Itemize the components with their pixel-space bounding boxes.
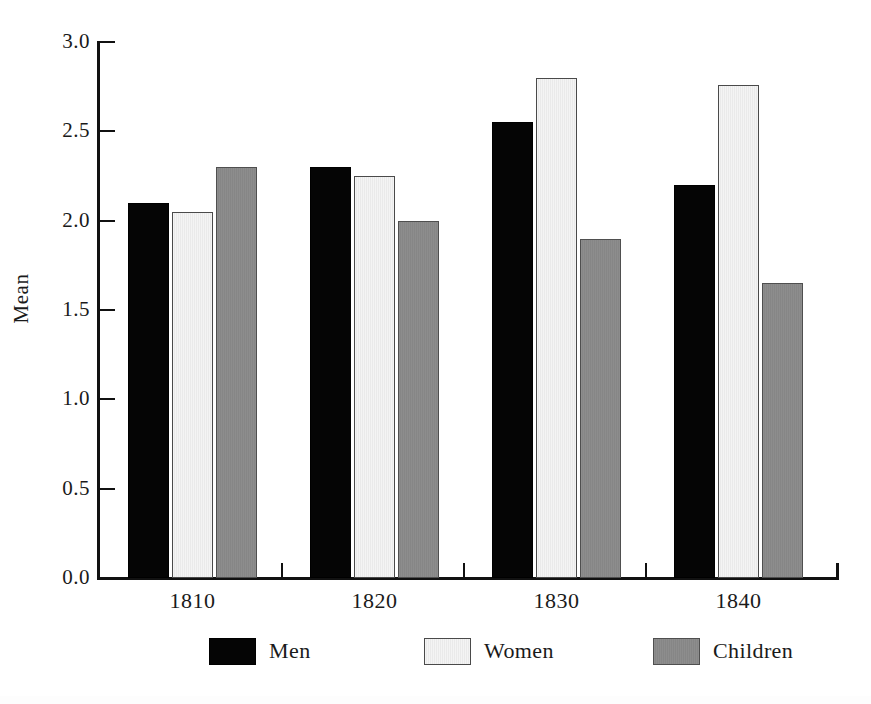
bar-men-1820 [310, 167, 351, 578]
legend-swatch-men [209, 638, 256, 665]
x-axis-separator-tick [463, 563, 465, 578]
legend-label-women: Women [484, 639, 554, 663]
y-axis-tick-label-wrap: 1.5 [18, 299, 90, 320]
y-axis-tick-label-wrap: 3.0 [18, 31, 90, 52]
y-axis-tick-label: 3.0 [34, 31, 90, 52]
y-axis-tick-label: 1.5 [34, 299, 90, 320]
legend-label-men: Men [269, 639, 311, 663]
scan-edge-artifact [0, 696, 871, 704]
y-axis-tick-label-wrap: 0.5 [18, 478, 90, 499]
x-axis-label-1840: 1840 [679, 588, 799, 614]
bar-children-1810 [216, 167, 257, 578]
y-axis-tick [100, 130, 115, 132]
y-axis-tick-label-wrap: 2.5 [18, 120, 90, 141]
bar-men-1830 [492, 122, 533, 578]
legend-swatch-women [424, 638, 471, 665]
bar-children-1820 [398, 221, 439, 578]
bar-women-1830 [536, 78, 577, 578]
y-axis-tick [100, 398, 115, 400]
bar-women-1840 [718, 85, 759, 578]
y-axis-tick-label-wrap: 2.0 [18, 210, 90, 231]
y-axis-tick-label: 0.0 [34, 567, 90, 588]
y-axis-tick-label: 2.5 [34, 120, 90, 141]
bar-women-1820 [354, 176, 395, 578]
legend-label-children: Children [713, 639, 793, 663]
y-axis-tick [100, 220, 115, 222]
y-axis-tick-label: 0.5 [34, 478, 90, 499]
legend-item-men: Men [209, 634, 311, 668]
x-axis-label-1820: 1820 [315, 588, 435, 614]
bar-men-1840 [674, 185, 715, 578]
bar-women-1810 [172, 212, 213, 578]
chart-legend: MenWomenChildren [97, 634, 839, 674]
x-axis-end-tick [836, 563, 839, 580]
bar-children-1830 [580, 239, 621, 578]
y-axis-tick [100, 309, 115, 311]
bar-men-1810 [128, 203, 169, 578]
legend-swatch-children [653, 638, 700, 665]
bar-chart-figure: Mean 3.02.52.01.51.00.50.0 1810182018301… [0, 0, 871, 704]
bar-children-1840 [762, 283, 803, 578]
y-axis-tick-label-wrap: 1.0 [18, 388, 90, 409]
y-axis-tick [100, 488, 115, 490]
x-axis-label-1830: 1830 [497, 588, 617, 614]
y-axis-tick [100, 41, 115, 43]
x-axis-separator-tick [281, 563, 283, 578]
x-axis-label-1810: 1810 [133, 588, 253, 614]
y-axis-tick-label: 2.0 [34, 210, 90, 231]
legend-item-women: Women [424, 634, 554, 668]
x-axis-separator-tick [645, 563, 647, 578]
y-axis-tick-label-wrap: 0.0 [18, 567, 90, 588]
legend-item-children: Children [653, 634, 793, 668]
y-axis-tick-label: 1.0 [34, 388, 90, 409]
